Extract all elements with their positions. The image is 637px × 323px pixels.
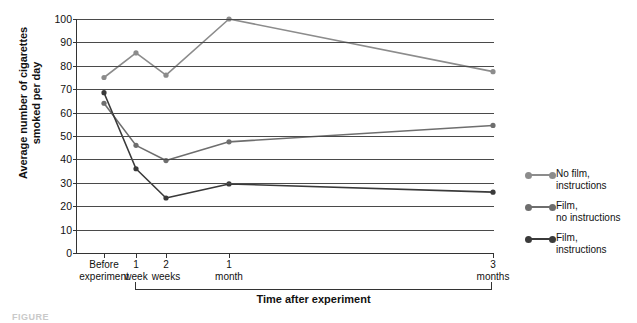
y-axis-title-line2: smoked per day xyxy=(30,0,43,211)
x-axis-title: Time after experiment xyxy=(135,293,492,305)
x-axis-tick-label: 1month xyxy=(215,259,243,282)
y-axis-tick xyxy=(73,183,77,184)
data-point-marker xyxy=(101,75,106,80)
data-point-marker xyxy=(101,101,106,106)
figure-cigarettes-line-chart: Average number of cigarettes smoked per … xyxy=(0,0,637,323)
data-point-marker xyxy=(133,166,138,171)
plot-area: 1009080706050403020100Beforeexperiment1w… xyxy=(76,19,494,254)
y-axis-tick-label: 0 xyxy=(66,247,72,259)
y-axis-tick-label: 40 xyxy=(60,153,72,165)
legend-line-icon xyxy=(525,201,556,213)
figure-caption: FIGURE xyxy=(12,312,49,322)
legend-item-label-line2: instructions xyxy=(556,180,607,192)
y-axis-tick xyxy=(73,253,77,254)
y-axis-tick-label: 30 xyxy=(60,177,72,189)
legend-item-label: Film,no instructions xyxy=(556,200,620,223)
data-point-marker xyxy=(163,195,168,200)
data-point-marker xyxy=(226,139,231,144)
x-axis-tick xyxy=(136,253,137,258)
y-axis-tick xyxy=(73,159,77,160)
x-axis-tick-label: 3months xyxy=(477,259,510,282)
legend-item-label: Film,instructions xyxy=(556,232,607,255)
y-axis-tick xyxy=(73,113,77,114)
gridline xyxy=(77,159,494,160)
gridline xyxy=(77,42,494,43)
gridline xyxy=(77,206,494,207)
y-axis-tick xyxy=(73,66,77,67)
data-point-marker xyxy=(490,69,495,74)
y-axis-tick-label: 90 xyxy=(60,36,72,48)
y-axis-tick xyxy=(73,19,77,20)
legend-item-label-line1: Film, xyxy=(556,200,620,212)
legend-item-label-line1: No film, xyxy=(556,168,607,180)
data-point-marker xyxy=(163,73,168,78)
y-axis-tick-label: 20 xyxy=(60,200,72,212)
x-axis-tick-label: 1week xyxy=(124,259,147,282)
data-point-marker xyxy=(490,190,495,195)
y-axis-tick-label: 50 xyxy=(60,130,72,142)
data-point-marker xyxy=(133,50,138,55)
x-axis-tick-label: 2weeks xyxy=(152,259,180,282)
y-axis-tick-label: 10 xyxy=(60,224,72,236)
x-axis-tick-label-line2: month xyxy=(215,271,243,283)
x-axis-tick-label-line1: Before xyxy=(79,259,128,271)
x-axis-tick xyxy=(229,253,230,258)
x-axis-tick xyxy=(493,253,494,258)
x-axis-tick-label-line2: week xyxy=(124,271,147,283)
y-axis-tick xyxy=(73,136,77,137)
gridline xyxy=(77,183,494,184)
data-point-marker xyxy=(490,123,495,128)
x-axis-tick-label-line2: weeks xyxy=(152,271,180,283)
y-axis-title-line1: Average number of cigarettes xyxy=(17,0,30,211)
data-point-marker xyxy=(101,90,106,95)
x-axis-tick-label: Beforeexperiment xyxy=(79,259,128,282)
legend-item-label-line2: no instructions xyxy=(556,212,620,224)
y-axis-tick-label: 100 xyxy=(54,13,72,25)
y-axis-tick xyxy=(73,42,77,43)
y-axis-tick-label: 60 xyxy=(60,107,72,119)
legend-item-label-line2: instructions xyxy=(556,244,607,256)
series-line xyxy=(104,19,493,78)
legend-item-label: No film,instructions xyxy=(556,168,607,191)
legend-item: Film,no instructions xyxy=(525,200,637,223)
y-axis-tick xyxy=(73,206,77,207)
gridline xyxy=(77,136,494,137)
x-axis-tick-label-line1: 1 xyxy=(215,259,243,271)
x-axis-tick xyxy=(104,253,105,258)
gridline xyxy=(77,89,494,90)
gridline xyxy=(77,113,494,114)
legend-line-icon xyxy=(525,169,556,181)
legend-item-label-line1: Film, xyxy=(556,232,607,244)
data-point-marker xyxy=(133,143,138,148)
legend-item: No film,instructions xyxy=(525,168,637,191)
y-axis-title: Average number of cigarettes smoked per … xyxy=(17,0,43,211)
legend-line-icon xyxy=(525,233,556,245)
gridline xyxy=(77,19,494,20)
chart-legend: No film,instructionsFilm,no instructions… xyxy=(525,168,637,264)
y-axis-tick-label: 70 xyxy=(60,83,72,95)
legend-item: Film,instructions xyxy=(525,232,637,255)
gridline xyxy=(77,230,494,231)
y-axis-tick-label: 80 xyxy=(60,60,72,72)
gridline xyxy=(77,66,494,67)
x-axis-tick-label-line2: months xyxy=(477,271,510,283)
x-axis-tick-label-line1: 3 xyxy=(477,259,510,271)
x-axis-tick-label-line2: experiment xyxy=(79,271,128,283)
x-axis-tick-label-line1: 2 xyxy=(152,259,180,271)
x-axis-tick-label-line1: 1 xyxy=(124,259,147,271)
x-axis-tick xyxy=(166,253,167,258)
y-axis-tick xyxy=(73,230,77,231)
x-axis-bracket xyxy=(135,282,492,290)
y-axis-tick xyxy=(73,89,77,90)
